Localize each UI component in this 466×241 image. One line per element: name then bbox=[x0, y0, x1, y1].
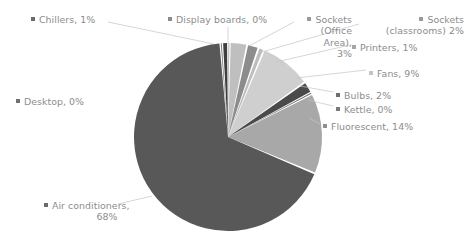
fans-marker-icon bbox=[369, 71, 373, 75]
printers-marker-icon bbox=[352, 45, 356, 49]
air-conditioners-marker-icon bbox=[44, 203, 48, 207]
air-conditioners-label-line1: Air conditioners, bbox=[52, 200, 130, 211]
kettle-marker-icon bbox=[336, 107, 340, 111]
fans-label-text: Fans, 9% bbox=[377, 68, 419, 79]
sockets-office-label-line1: Sockets bbox=[315, 14, 352, 25]
slice-label-air-conditioners: Air conditioners, 68% bbox=[44, 199, 164, 223]
desktop-marker-icon bbox=[16, 99, 20, 103]
desktop-label-text: Desktop, 0% bbox=[24, 96, 84, 107]
sockets-office-label-line2: (Office bbox=[288, 25, 352, 37]
sockets-office-label-line3: Area), bbox=[288, 37, 352, 49]
fluorescent-marker-icon bbox=[323, 124, 327, 128]
sockets-classrooms-label-line1: Sockets bbox=[427, 14, 464, 25]
slice-label-kettle: Kettle, 0% bbox=[336, 103, 393, 115]
printers-label-text: Printers, 1% bbox=[360, 42, 418, 53]
bulbs-marker-icon bbox=[336, 93, 340, 97]
display-boards-label-text: Display boards, 0% bbox=[176, 14, 267, 25]
bulbs-label-text: Bulbs, 2% bbox=[344, 90, 391, 101]
slice-label-bulbs: Bulbs, 2% bbox=[336, 89, 391, 101]
sockets-classrooms-marker-icon bbox=[419, 17, 423, 21]
kettle-label-text: Kettle, 0% bbox=[344, 104, 393, 115]
slice-label-sockets-office-area: Sockets (Office Area), 3% bbox=[288, 13, 352, 60]
slice-label-fans: Fans, 9% bbox=[369, 67, 419, 79]
slice-label-display-boards: Display boards, 0% bbox=[168, 13, 267, 25]
slice-label-printers: Printers, 1% bbox=[352, 41, 418, 53]
fluorescent-label-text: Fluorescent, 14% bbox=[331, 121, 413, 132]
slice-label-chillers: Chillers, 1% bbox=[31, 13, 95, 25]
slice-label-desktop: Desktop, 0% bbox=[16, 95, 84, 107]
sockets-classrooms-label-line2: (classrooms) 2% bbox=[366, 25, 464, 37]
slice-label-fluorescent: Fluorescent, 14% bbox=[323, 120, 413, 132]
sockets-office-marker-icon bbox=[307, 17, 311, 21]
chillers-marker-icon bbox=[31, 17, 35, 21]
display-boards-marker-icon bbox=[168, 17, 172, 21]
sockets-office-label-line4: 3% bbox=[288, 48, 352, 60]
pie-chart-figure: Chillers, 1% Display boards, 0% Sockets … bbox=[0, 0, 466, 241]
slice-label-sockets-classrooms: Sockets (classrooms) 2% bbox=[366, 13, 464, 37]
air-conditioners-label-line2: 68% bbox=[44, 211, 164, 223]
chillers-label-text: Chillers, 1% bbox=[39, 14, 95, 25]
